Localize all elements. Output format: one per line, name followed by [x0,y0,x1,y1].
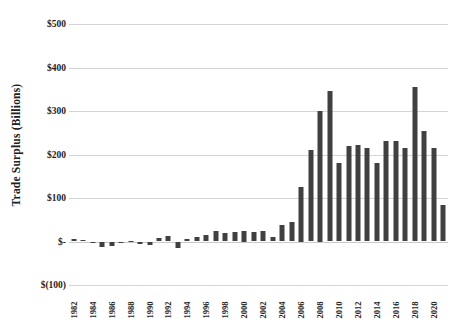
bar [346,146,351,242]
bar [204,235,209,242]
bar-slot [259,24,268,285]
bar [157,238,162,241]
bar-slot [277,24,286,285]
plot-area [69,24,448,285]
bar [318,111,323,242]
bar-slot [353,24,362,285]
bar-slot [429,24,438,285]
bar [365,148,370,242]
bar-slot [372,24,381,285]
bar [194,237,199,241]
bar [166,236,171,241]
bar-slot [221,24,230,285]
bar-slot [88,24,97,285]
bar [327,91,332,241]
bar-slot [287,24,296,285]
bar [261,231,266,241]
bar-slot [78,24,87,285]
bar-slot [211,24,220,285]
bar-slot [183,24,192,285]
y-axis-tick-label: $300 [6,106,66,116]
bar-slot [410,24,419,285]
bar [175,242,180,248]
bar [223,233,228,242]
bar [100,242,105,248]
y-axis-tick-label: $- [6,237,66,247]
bar-slot [164,24,173,285]
x-axis-tick-label: 2020 [411,288,457,334]
y-axis-tick-label: $400 [6,63,66,73]
bar [431,148,436,242]
bar-slot [126,24,135,285]
bar-slot [344,24,353,285]
bar-slot [382,24,391,285]
bar [412,87,417,241]
bar [109,242,114,246]
bar-slot [107,24,116,285]
bar [355,145,360,242]
bar [422,131,427,242]
bar-slot [116,24,125,285]
bar-slot [334,24,343,285]
bar [441,205,446,242]
bar-slot [401,24,410,285]
bar [374,163,379,241]
bar [213,231,218,241]
bar [71,239,76,242]
bar-slot [230,24,239,285]
bar-slot [391,24,400,285]
bar [242,231,247,242]
x-axis-tick-labels: 1982198419861988199019921994199619982000… [69,288,448,334]
bar [384,141,389,241]
bar-slot [420,24,429,285]
bar [251,232,256,241]
bar-slot [145,24,154,285]
y-axis-tick-label: $500 [6,19,66,29]
bar [280,225,285,242]
bar-slot [202,24,211,285]
bar [403,148,408,242]
bar [393,141,398,242]
bar [81,240,86,242]
bar-slot [135,24,144,285]
bar [232,232,237,242]
bar-slot [306,24,315,285]
bar-slot [69,24,78,285]
bar [90,242,95,244]
bar [119,242,124,244]
bar-slot [439,24,448,285]
y-axis-tick-label: $200 [6,150,66,160]
bar [337,163,342,241]
gridline [69,285,448,286]
bar-chart: Trade Surplus (Billions) $500$400$300$20… [0,0,457,336]
bar [289,222,294,241]
bar-slot [296,24,305,285]
bar-slot [173,24,182,285]
bar-slot [325,24,334,285]
bar [147,242,152,246]
bar-slot [315,24,324,285]
bar [138,242,143,244]
bar [270,237,275,241]
bar-slot [363,24,372,285]
bar-series [69,24,448,285]
bar [128,241,133,243]
y-axis-tick-label: $100 [6,193,66,203]
bar-slot [97,24,106,285]
bar-slot [154,24,163,285]
y-axis-tick-labels: $500$400$300$200$100$-$(100) [0,24,66,285]
bar-slot [268,24,277,285]
bar-slot [240,24,249,285]
bar [299,187,304,241]
bar [308,150,313,241]
bar-slot [249,24,258,285]
bar-slot [192,24,201,285]
bar [185,239,190,241]
x-axis-tick-text: 2020 [429,287,439,333]
